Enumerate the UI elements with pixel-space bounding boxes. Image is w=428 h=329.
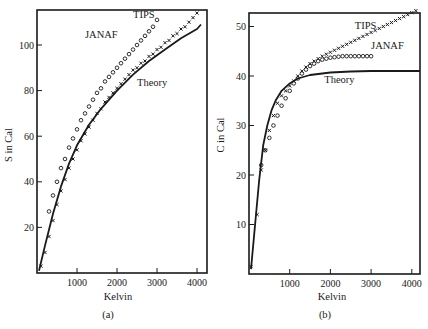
x-tick-label: 2000: [107, 277, 127, 288]
circle-marker: [333, 55, 337, 59]
cross-marker: [179, 27, 182, 30]
plot-frame: [37, 10, 207, 273]
circle-marker: [308, 64, 312, 68]
circle-marker: [312, 62, 316, 66]
cross-marker: [171, 34, 174, 37]
y-tick-label: 30: [236, 120, 246, 131]
circle-marker: [341, 54, 345, 58]
y-tick-label: 50: [236, 21, 246, 32]
cross-marker: [280, 94, 283, 97]
cross-marker: [365, 33, 368, 36]
x-tick-label: 1000: [280, 278, 300, 289]
circle-marker: [353, 54, 357, 58]
y-tick-label: 20: [236, 170, 246, 181]
panel-label: (b): [319, 309, 332, 321]
circle-marker: [288, 89, 292, 93]
circle-marker: [357, 54, 361, 58]
cross-marker: [333, 49, 336, 52]
circle-marker: [325, 57, 329, 61]
circle-marker: [115, 66, 119, 70]
circle-marker: [79, 118, 83, 122]
cross-marker: [163, 41, 166, 44]
y-tick-label: 10: [236, 219, 246, 230]
y-tick-label: 100: [19, 40, 34, 51]
circle-marker: [316, 59, 320, 63]
circle-marker: [280, 104, 284, 108]
circle-marker: [95, 91, 99, 95]
x-tick-label: 3000: [361, 278, 381, 289]
circle-marker: [268, 136, 272, 140]
y-tick-label: 20: [24, 222, 34, 233]
circle-marker: [71, 137, 75, 141]
cross-marker: [167, 39, 170, 42]
x-tick-label: 1000: [67, 277, 87, 288]
circle-marker: [365, 54, 369, 58]
cross-marker: [402, 15, 405, 18]
cross-marker: [284, 89, 287, 92]
circle-marker: [55, 180, 59, 184]
cross-marker: [123, 78, 126, 81]
plot-frame: [249, 13, 420, 274]
cross-marker: [398, 17, 401, 20]
cross-marker: [321, 55, 324, 58]
cross-marker: [268, 129, 271, 132]
circle-marker: [272, 124, 276, 128]
cross-marker: [183, 25, 186, 28]
circle-marker: [107, 75, 111, 79]
y-tick-label: 80: [24, 85, 34, 96]
circle-marker: [103, 80, 107, 84]
cross-marker: [361, 35, 364, 38]
x-tick-label: 3000: [147, 277, 167, 288]
cross-marker: [175, 32, 178, 35]
cross-marker: [155, 48, 158, 51]
circle-marker: [292, 82, 296, 86]
circle-marker: [320, 58, 324, 62]
series-janaf: [47, 18, 159, 213]
circle-marker: [276, 114, 280, 118]
y-tick-label: 40: [24, 176, 34, 187]
series-annotation-janaf: JANAF: [371, 40, 404, 51]
x-tick-label: 4000: [187, 277, 207, 288]
cross-marker: [341, 45, 344, 48]
cross-marker: [378, 27, 381, 30]
x-axis-label: Kelvin: [318, 291, 347, 302]
cross-marker: [195, 11, 198, 14]
cross-marker: [143, 59, 146, 62]
circle-marker: [83, 112, 87, 116]
cross-marker: [353, 39, 356, 42]
circle-marker: [349, 54, 353, 58]
cross-marker: [131, 68, 134, 71]
cross-marker: [139, 62, 142, 65]
series-annotation-tips: TIPS: [355, 20, 377, 31]
circle-marker: [369, 54, 373, 58]
cross-marker: [414, 9, 417, 12]
x-axis-label: Kelvin: [104, 291, 133, 302]
circle-marker: [155, 18, 159, 22]
cross-marker: [345, 43, 348, 46]
circle-marker: [329, 56, 333, 60]
cross-marker: [386, 23, 389, 26]
series-tips: [39, 11, 198, 267]
series-annotation-janaf: JANAF: [85, 29, 118, 40]
cross-marker: [382, 25, 385, 28]
cross-marker: [349, 41, 352, 44]
series-annotation-tips: TIPS: [133, 9, 155, 20]
cross-marker: [276, 102, 279, 105]
panel-label: (a): [102, 309, 114, 321]
circle-marker: [151, 25, 155, 29]
circle-marker: [304, 68, 308, 72]
y-axis-label: S in Cal: [3, 128, 14, 162]
circle-marker: [67, 146, 71, 150]
circle-marker: [51, 194, 55, 198]
circle-marker: [337, 55, 341, 59]
cross-marker: [288, 84, 291, 87]
circle-marker: [361, 54, 365, 58]
x-tick-label: 2000: [320, 278, 340, 289]
series-annotation-theory: Theory: [324, 74, 355, 85]
circle-marker: [63, 157, 67, 161]
cross-marker: [370, 31, 373, 34]
cross-marker: [147, 55, 150, 58]
circle-marker: [300, 72, 304, 76]
circle-marker: [123, 57, 127, 61]
cross-marker: [272, 114, 275, 117]
